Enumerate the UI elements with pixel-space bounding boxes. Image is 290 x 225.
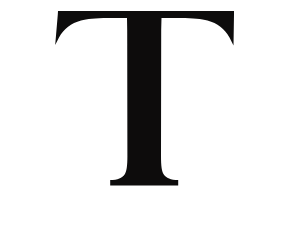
- image-canvas: T Large black uppercase serif letter T c…: [0, 0, 290, 225]
- letter-t-svg: [0, 0, 290, 225]
- letter-glyph-layer: [0, 0, 290, 225]
